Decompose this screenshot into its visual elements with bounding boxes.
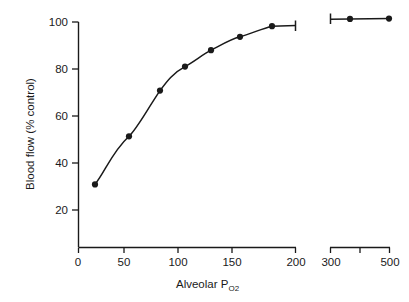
data-point-7 xyxy=(269,23,275,29)
x-axis-title: Alveolar PO2 xyxy=(176,278,240,293)
plateau-segment-right xyxy=(330,19,390,20)
y-tick-label-80: 80 xyxy=(55,63,68,75)
x-tick-label-150: 150 xyxy=(222,256,241,268)
data-point-6 xyxy=(237,34,243,40)
data-series-high-po2 xyxy=(330,14,392,25)
data-point-1 xyxy=(92,181,98,187)
x-tick-label-500: 500 xyxy=(380,256,399,268)
x-tick-label-200: 200 xyxy=(286,256,305,268)
chart-figure: 100 80 60 40 20 Blood flow (% control) 0… xyxy=(0,0,409,302)
data-point-3 xyxy=(157,88,163,94)
y-tick-label-100: 100 xyxy=(49,16,68,28)
y-tick-label-40: 40 xyxy=(55,157,68,169)
data-point-9 xyxy=(386,16,392,22)
x-axis-right: 300 500 xyxy=(321,248,399,269)
data-point-2 xyxy=(126,133,132,139)
y-tick-label-20: 20 xyxy=(55,204,68,216)
y-axis-title: Blood flow (% control) xyxy=(24,78,36,190)
y-tick-label-60: 60 xyxy=(55,110,68,122)
x-tick-label-0: 0 xyxy=(75,256,81,268)
main-curve-path xyxy=(95,26,272,184)
x-axis-title-group: Alveolar PO2 xyxy=(176,278,240,293)
data-point-8 xyxy=(347,16,353,22)
plateau-segment-left xyxy=(272,26,296,27)
data-point-4 xyxy=(182,64,188,70)
y-axis: 100 80 60 40 20 Blood flow (% control) xyxy=(24,16,79,247)
data-point-5 xyxy=(208,47,214,53)
x-tick-label-100: 100 xyxy=(168,256,187,268)
x-tick-label-50: 50 xyxy=(118,256,131,268)
x-axis-title-main: Alveolar P xyxy=(176,278,229,290)
blood-flow-line-chart: 100 80 60 40 20 Blood flow (% control) 0… xyxy=(0,0,409,302)
data-series-main xyxy=(92,21,296,188)
x-tick-label-300: 300 xyxy=(321,256,340,268)
x-axis-left: 0 50 100 150 200 xyxy=(75,248,306,269)
x-axis-title-sub-2: 2 xyxy=(235,284,240,293)
